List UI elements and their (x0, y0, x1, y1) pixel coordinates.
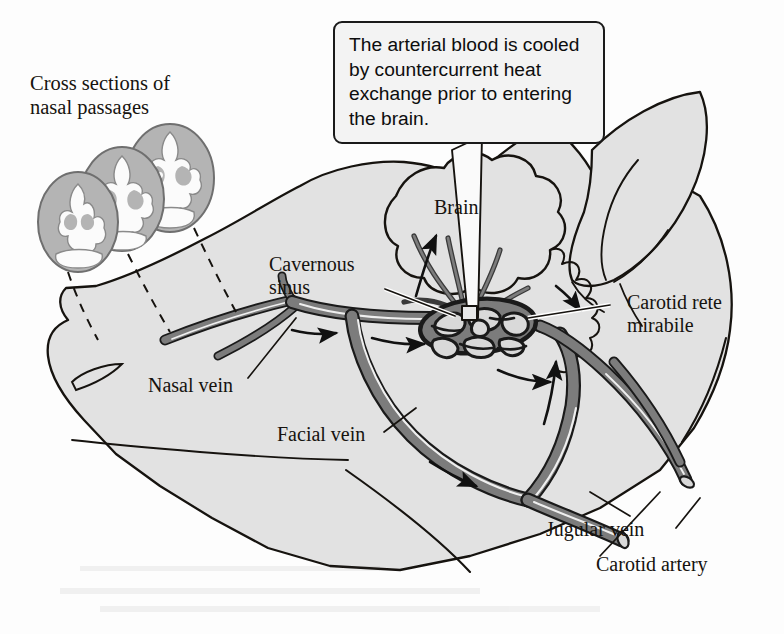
label-cross-sections: Cross sections of nasal passages (30, 72, 170, 120)
label-nasal-vein: Nasal vein (148, 374, 233, 397)
label-carotid-artery: Carotid artery (596, 553, 708, 576)
callout-text: The arterial blood is cooled by counterc… (349, 33, 591, 131)
label-facial-vein: Facial vein (277, 423, 365, 446)
leader-carotid-artery (676, 498, 700, 528)
label-brain: Brain (434, 196, 478, 219)
callout-pointer-foot (462, 306, 477, 320)
label-cavernous-sinus: Cavernous sinus (269, 253, 355, 299)
carotid-cut-end (678, 474, 696, 490)
callout-box: The arterial blood is cooled by counterc… (333, 21, 605, 144)
label-jugular-vein: Jugular vein (546, 518, 644, 541)
scan-ghost-artifact (60, 566, 600, 612)
cross-section-1 (38, 172, 118, 272)
label-carotid-rete-mirabile: Carotid rete mirabile (627, 291, 722, 337)
figure-canvas: The arterial blood is cooled by counterc… (0, 0, 784, 634)
